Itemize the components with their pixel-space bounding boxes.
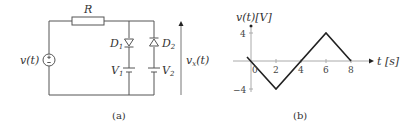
x-tick-0: 0 bbox=[252, 65, 258, 75]
y-tick-neg4: −4 bbox=[233, 85, 247, 95]
diode1-label: D1 bbox=[109, 37, 123, 51]
voltage-source-icon bbox=[43, 54, 55, 66]
output-voltage-arrow-icon bbox=[179, 21, 184, 95]
resistor-label: R bbox=[83, 3, 92, 16]
output-voltage-label: vx(t) bbox=[186, 54, 209, 68]
figure-canvas: R v(t) D1 D2 V1 V2 vx(t) (a) v(t)[V] 4 −… bbox=[0, 0, 410, 127]
diode-d2-icon bbox=[150, 38, 159, 46]
y-axis-label: v(t)[V] bbox=[236, 11, 272, 24]
battery-v2-icon bbox=[148, 68, 160, 72]
y-tick-4: 4 bbox=[240, 29, 246, 39]
y-axis-arrow-icon bbox=[250, 25, 253, 28]
caption-a: (a) bbox=[112, 110, 126, 121]
battery-v1-icon bbox=[123, 68, 135, 72]
x-tick-4: 4 bbox=[298, 65, 304, 75]
diode-d1-icon bbox=[125, 39, 134, 47]
resistor bbox=[72, 17, 104, 25]
x-tick-2: 2 bbox=[273, 65, 279, 75]
x-axis-arrow-icon bbox=[369, 59, 374, 64]
circuit-diagram bbox=[49, 17, 154, 95]
source-label: v(t) bbox=[20, 54, 39, 67]
x-tick-8: 8 bbox=[348, 65, 354, 75]
diode2-label: D2 bbox=[161, 37, 176, 51]
waveform-chart bbox=[233, 25, 374, 93]
battery1-label: V1 bbox=[111, 64, 123, 78]
caption-b: (b) bbox=[293, 110, 307, 121]
x-tick-6: 6 bbox=[323, 65, 329, 75]
battery2-label: V2 bbox=[162, 64, 175, 78]
x-axis-label: t [s] bbox=[377, 55, 400, 68]
